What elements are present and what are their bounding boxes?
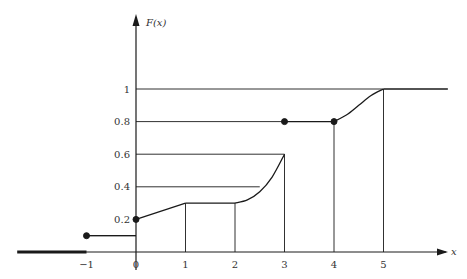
x-tick-label: 0 bbox=[133, 259, 139, 270]
jump-point bbox=[84, 233, 90, 239]
axes: F(x) x bbox=[18, 14, 457, 270]
jump-point bbox=[282, 119, 288, 125]
y-tick-label: 0.4 bbox=[114, 181, 130, 192]
x-axis-arrow-icon bbox=[437, 249, 448, 256]
x-tick-label: 5 bbox=[380, 259, 386, 270]
y-tick-label: 0.2 bbox=[114, 214, 130, 225]
x-tick-label: 2 bbox=[232, 259, 238, 270]
x-tick-label: 3 bbox=[281, 259, 287, 270]
x-axis-label: x bbox=[451, 246, 457, 257]
tick-labels: −10123450.20.40.60.81 bbox=[79, 84, 387, 271]
segment-linear-rise bbox=[136, 203, 186, 219]
y-axis-arrow-icon bbox=[133, 14, 140, 26]
cdf-chart: F(x) x −10123450.20.40.60.81 bbox=[0, 0, 467, 279]
y-tick-label: 0.6 bbox=[114, 149, 130, 160]
y-axis-label: F(x) bbox=[145, 17, 166, 28]
y-tick-label: 0.8 bbox=[114, 116, 130, 127]
jump-point bbox=[331, 119, 337, 125]
segment-s-rise bbox=[334, 89, 384, 122]
y-tick-label: 1 bbox=[124, 84, 130, 95]
x-tick-label: −1 bbox=[79, 259, 94, 270]
guide-lines bbox=[87, 89, 384, 252]
segment-convex-rise bbox=[235, 154, 285, 203]
x-tick-label: 4 bbox=[331, 259, 337, 270]
x-tick-label: 1 bbox=[182, 259, 188, 270]
jump-point bbox=[133, 216, 139, 222]
